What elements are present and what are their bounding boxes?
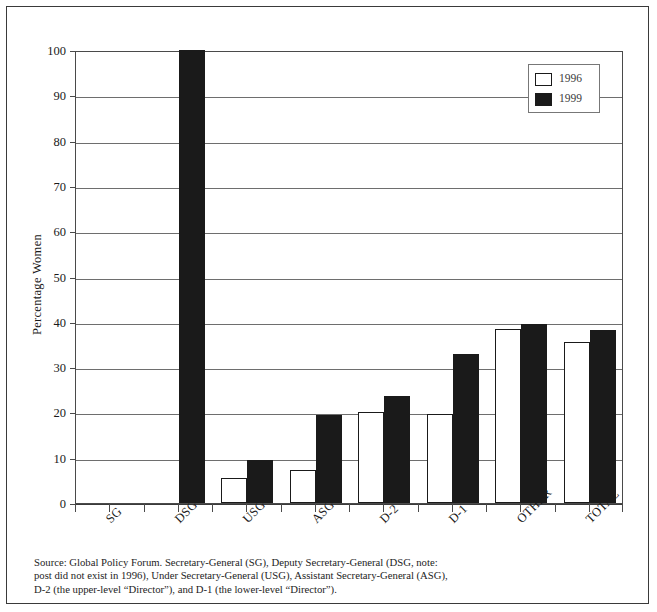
y-tick-label-30: 30 [54, 362, 67, 375]
source-note-line-3: D-2 (the upper-level “Director”), and D-… [34, 583, 514, 596]
bar-d-2-1999 [384, 396, 410, 503]
bar-group-usg [221, 52, 273, 503]
y-tick-label-90: 90 [54, 90, 67, 103]
bar-group-d-1 [427, 52, 479, 503]
y-tick-label-60: 60 [54, 226, 67, 239]
x-tick-mark-sep-3 [281, 504, 282, 512]
bar-group-dsg [153, 52, 205, 503]
legend: 1996 1999 [528, 64, 600, 113]
source-note: Source: Global Policy Forum. Secretary-G… [34, 556, 514, 596]
legend-swatch-1996-icon [535, 73, 552, 86]
bars-layer [76, 52, 622, 503]
y-tick-label-70: 70 [54, 181, 67, 194]
bar-other-1996 [495, 329, 521, 503]
y-tick-label-20: 20 [54, 407, 67, 420]
source-note-line-2: post did not exist in 1996), Under Secre… [34, 569, 514, 582]
bar-total-1999 [590, 330, 616, 503]
x-tick-mark-sep-1 [144, 504, 145, 512]
y-tick-label-40: 40 [54, 317, 67, 330]
bar-d-1-1996 [427, 414, 453, 503]
source-note-line-1: Source: Global Policy Forum. Secretary-G… [34, 556, 514, 569]
y-tick-label-50: 50 [54, 271, 67, 284]
bar-asg-1999 [316, 415, 342, 503]
bar-total-1996 [564, 342, 590, 503]
y-tick-label-80: 80 [54, 135, 67, 148]
bar-usg-1999 [247, 460, 273, 503]
x-tick-mark-sep-7 [555, 504, 556, 512]
y-tick-label-100: 100 [47, 45, 66, 58]
bar-group-d-2 [358, 52, 410, 503]
bar-other-1999 [521, 324, 547, 503]
bar-asg-1996 [290, 470, 316, 503]
x-axis-labels: SGDSGUSGASGD-2D-1OTHERTOTAL [75, 512, 623, 560]
legend-item-1999: 1999 [535, 90, 593, 108]
bar-d-2-1996 [358, 412, 384, 504]
legend-label-1996: 1996 [559, 73, 582, 85]
y-tick-label-0: 0 [60, 498, 66, 511]
x-tick-mark-edge-0 [75, 504, 76, 512]
legend-label-1999: 1999 [559, 93, 582, 105]
y-axis-title: Percentage Women [30, 185, 45, 385]
legend-item-1996: 1996 [535, 70, 593, 88]
x-tick-mark-edge-1 [622, 504, 623, 512]
x-tick-mark-sep-5 [418, 504, 419, 512]
bar-group-other [495, 52, 547, 503]
plot-area [75, 51, 623, 504]
legend-swatch-1999-icon [535, 93, 552, 106]
y-tick-label-10: 10 [54, 452, 67, 465]
bar-group-sg [84, 52, 136, 503]
x-tick-mark-sep-6 [486, 504, 487, 512]
x-tick-mark-sep-4 [349, 504, 350, 512]
x-tick-mark-sep-2 [212, 504, 213, 512]
bar-dsg-1999 [179, 50, 205, 503]
figure-frame: 0102030405060708090100 Percentage Women … [6, 6, 649, 604]
bar-usg-1996 [221, 478, 247, 503]
bar-group-total [564, 52, 616, 503]
bar-group-asg [290, 52, 342, 503]
bar-d-1-1999 [453, 354, 479, 503]
